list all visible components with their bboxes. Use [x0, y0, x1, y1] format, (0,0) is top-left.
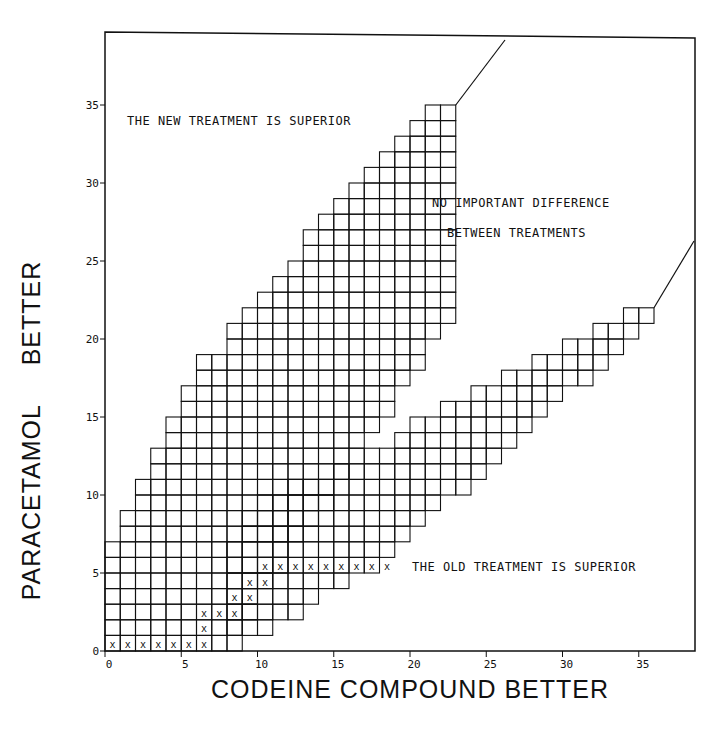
grid-cell	[151, 448, 166, 464]
grid-cell	[136, 573, 151, 589]
grid-cell	[471, 401, 486, 417]
grid-cell	[364, 308, 379, 324]
grid-cell	[242, 308, 257, 324]
grid-cell	[334, 370, 349, 386]
grid-cell	[593, 355, 608, 371]
grid-cell	[410, 167, 425, 183]
grid-cell	[380, 386, 395, 402]
grid-cell	[288, 448, 303, 464]
grid-cell	[380, 214, 395, 230]
grid-cell	[410, 121, 425, 137]
grid-cell	[181, 479, 196, 495]
grid-cell	[136, 589, 151, 605]
grid-cell	[258, 323, 273, 339]
grid-cell	[303, 542, 318, 558]
grid-cell	[258, 464, 273, 480]
grid-cell	[410, 308, 425, 324]
grid-cell	[227, 479, 242, 495]
grid-cell	[242, 604, 257, 620]
path-x-mark: x	[354, 561, 360, 572]
grid-cell	[319, 495, 334, 511]
grid-cell	[242, 386, 257, 402]
grid-cell	[319, 479, 334, 495]
path-x-mark: x	[338, 561, 344, 572]
grid-cell	[273, 542, 288, 558]
grid-cell	[486, 401, 501, 417]
grid-cell	[273, 511, 288, 527]
grid-cell	[441, 479, 456, 495]
grid-cell	[151, 464, 166, 480]
grid-cell	[364, 464, 379, 480]
grid-cell	[288, 308, 303, 324]
grid-cell	[242, 370, 257, 386]
grid-cell	[212, 557, 227, 573]
grid-cell	[349, 511, 364, 527]
grid-cell	[380, 479, 395, 495]
grid-cell	[288, 386, 303, 402]
grid-cell	[349, 401, 364, 417]
grid-cell	[517, 417, 532, 433]
path-x-mark: x	[216, 608, 222, 619]
grid-cell	[120, 557, 135, 573]
x-axis-label: CODEINE COMPOUND BETTER	[200, 675, 620, 704]
grid-cell	[120, 589, 135, 605]
grid-cell	[517, 401, 532, 417]
grid-cell	[242, 511, 257, 527]
grid-cell	[181, 557, 196, 573]
path-x-mark: x	[140, 639, 146, 650]
grid-cell	[410, 136, 425, 152]
grid-cell	[380, 526, 395, 542]
grid-cell	[364, 167, 379, 183]
grid-cell	[319, 401, 334, 417]
grid-cell	[242, 542, 257, 558]
grid-cell	[395, 526, 410, 542]
grid-cell	[120, 573, 135, 589]
path-x-mark: x	[262, 577, 268, 588]
path-x-mark: x	[171, 639, 177, 650]
grid-cell	[364, 277, 379, 293]
path-x-mark: x	[308, 561, 314, 572]
grid-cell	[334, 464, 349, 480]
grid-cell	[364, 339, 379, 355]
grid-cell	[258, 542, 273, 558]
grid-cell	[395, 448, 410, 464]
grid-cell	[227, 417, 242, 433]
grid-cell	[364, 292, 379, 308]
grid-cell	[303, 417, 318, 433]
grid-cell	[166, 604, 181, 620]
grid-cell	[441, 277, 456, 293]
grid-cell	[395, 292, 410, 308]
path-x-mark: x	[110, 639, 116, 650]
lower-boundary-extension	[654, 241, 694, 308]
grid-cell	[227, 620, 242, 636]
grid-cell	[181, 573, 196, 589]
grid-cell	[242, 464, 257, 480]
grid-cell	[258, 542, 273, 558]
grid-cell	[242, 557, 257, 573]
grid-cell	[273, 573, 288, 589]
grid-cell	[380, 448, 395, 464]
grid-cell	[349, 370, 364, 386]
grid-cell	[425, 136, 440, 152]
grid-cell	[364, 479, 379, 495]
grid-cell	[410, 355, 425, 371]
grid-cell	[258, 479, 273, 495]
grid-cell	[151, 620, 166, 636]
grid-cell	[212, 526, 227, 542]
grid-cell	[242, 511, 257, 527]
grid-cell	[273, 323, 288, 339]
grid-cell	[380, 167, 395, 183]
grid-cell	[288, 277, 303, 293]
grid-cell	[425, 464, 440, 480]
grid-cell	[364, 401, 379, 417]
grid-cell	[578, 355, 593, 371]
grid-cell	[258, 308, 273, 324]
grid-cell	[227, 511, 242, 527]
grid-cell	[197, 495, 212, 511]
grid-cell	[319, 214, 334, 230]
grid-cell	[456, 479, 471, 495]
grid-cell	[273, 308, 288, 324]
grid-cell	[410, 261, 425, 277]
grid-cell	[303, 277, 318, 293]
grid-cell	[181, 542, 196, 558]
